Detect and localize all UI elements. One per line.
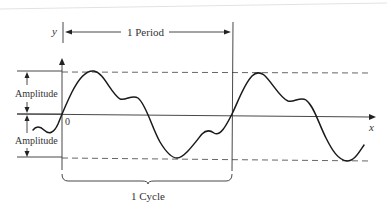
origin-label: 0 <box>65 116 70 127</box>
y-axis-arrow-icon <box>59 58 65 65</box>
period-arrow-right-icon <box>224 30 231 35</box>
amplitude-lower-arrow-down-icon <box>25 151 30 157</box>
amplitude-upper-arrow-down-icon <box>25 107 30 113</box>
x-axis <box>17 114 371 117</box>
period-label: 1 Period <box>127 26 164 38</box>
max-dashed-line <box>62 72 372 73</box>
min-dashed-line <box>62 158 372 161</box>
amplitude-upper-label: Amplitude <box>15 88 58 99</box>
period-right-line <box>232 22 233 171</box>
amplitude-lower-label: Amplitude <box>15 135 58 146</box>
x-axis-arrow-icon <box>369 114 376 120</box>
scan-edge <box>0 3 387 9</box>
amplitude-upper-arrow-up-icon <box>25 72 30 78</box>
waveform-diagram: x 0 y 1 Period Amplitude Amplitude 1 Cyc… <box>0 0 387 213</box>
y-axis-label: y <box>51 25 57 37</box>
cycle-brace <box>62 174 232 184</box>
cycle-label: 1 Cycle <box>131 190 165 202</box>
x-axis-label: x <box>368 121 374 133</box>
period-arrow-left-icon <box>65 30 72 35</box>
